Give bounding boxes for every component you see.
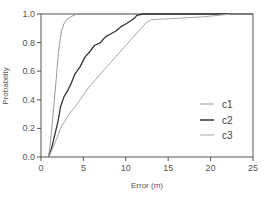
x-tick-label: 5 — [81, 163, 86, 173]
legend-label-c1: c1 — [222, 99, 233, 110]
y-tick-label: 0.2 — [22, 123, 35, 133]
x-tick-label: 0 — [38, 163, 43, 173]
y-tick-label: 0.0 — [22, 152, 35, 162]
legend-label-c2: c2 — [222, 115, 233, 126]
legend-label-c3: c3 — [222, 130, 233, 141]
y-tick-label: 0.6 — [22, 66, 35, 76]
x-tick-label: 20 — [206, 163, 216, 173]
cdf-chart: 0.00.20.40.60.81.0 0510152025 Error (m) … — [0, 0, 270, 198]
x-tick-label: 15 — [163, 163, 173, 173]
x-axis-ticks: 0510152025 — [38, 157, 258, 173]
y-axis-title: Probability — [1, 67, 10, 104]
x-tick-label: 25 — [248, 163, 258, 173]
x-axis-title: Error (m) — [131, 181, 163, 190]
legend: c1c2c3 — [200, 99, 233, 141]
y-tick-label: 0.8 — [22, 38, 35, 48]
y-axis-ticks: 0.00.20.40.60.81.0 — [22, 9, 41, 162]
y-tick-label: 1.0 — [22, 9, 35, 19]
x-tick-label: 10 — [121, 163, 131, 173]
y-tick-label: 0.4 — [22, 95, 35, 105]
